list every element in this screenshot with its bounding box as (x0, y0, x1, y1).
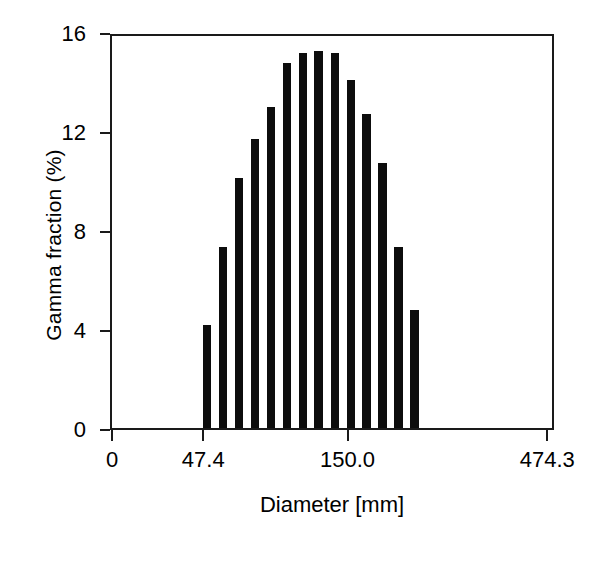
bar (410, 310, 418, 428)
bar (378, 163, 386, 428)
x-tick-label: 150.0 (320, 449, 375, 471)
x-axis-title: Diameter [mm] (110, 492, 554, 518)
x-tick-label: 0 (106, 449, 118, 471)
chart-figure: Gamma fraction (%) 0481216 047.4150.0474… (0, 0, 604, 566)
bar (267, 107, 275, 428)
y-tick-mark (100, 132, 110, 134)
bar (362, 114, 370, 428)
x-tick-label: 474.3 (520, 449, 575, 471)
y-tick-label: 8 (26, 221, 86, 243)
y-tick-mark (100, 33, 110, 35)
x-tick-label: 47.4 (182, 449, 225, 471)
x-tick-mark (347, 430, 349, 441)
bar (314, 51, 322, 428)
y-axis-title: Gamma fraction (%) (34, 30, 74, 460)
bar (219, 247, 227, 428)
x-tick-mark (202, 430, 204, 441)
bar (347, 80, 355, 428)
bar-series (112, 36, 552, 428)
y-tick-mark (100, 429, 110, 431)
y-tick-label: 12 (26, 122, 86, 144)
plot-area (110, 34, 554, 430)
bar (331, 53, 339, 428)
y-tick-label: 16 (26, 23, 86, 45)
bar (203, 325, 211, 428)
bar (283, 63, 291, 428)
bar (299, 53, 307, 428)
y-tick-label: 4 (26, 320, 86, 342)
x-tick-mark (111, 430, 113, 441)
y-tick-mark (100, 231, 110, 233)
bar (235, 178, 243, 428)
y-tick-mark (100, 330, 110, 332)
x-tick-mark (546, 430, 548, 441)
bar (394, 247, 402, 428)
y-tick-label: 0 (26, 419, 86, 441)
bar (251, 139, 259, 428)
